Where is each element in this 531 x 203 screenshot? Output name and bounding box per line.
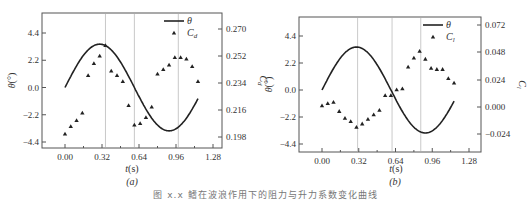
- data-marker: [383, 93, 387, 97]
- data-marker: [435, 67, 439, 71]
- data-marker: [173, 55, 177, 59]
- theta-line: [322, 47, 454, 133]
- data-marker: [74, 118, 78, 122]
- data-marker: [92, 61, 96, 65]
- data-marker: [167, 63, 171, 67]
- y-left-tick-label: 4.4: [285, 31, 297, 41]
- data-marker: [126, 103, 130, 107]
- y-right-tick-label: 0.270: [226, 24, 247, 34]
- x-tick-label: 0.00: [314, 156, 330, 166]
- y-right-tick-label: −0.024: [485, 129, 511, 139]
- data-marker: [394, 88, 398, 92]
- y-left-tick-label: −2.2: [280, 112, 296, 122]
- chart-panel-a: 0.000.320.640.961.284.42.20.0−2.2−4.40.2…: [0, 0, 531, 203]
- data-marker: [371, 112, 375, 116]
- x-tick-label: 1.28: [461, 156, 477, 166]
- data-marker: [132, 123, 136, 127]
- panel-sublabel: (a): [126, 176, 138, 188]
- data-marker: [360, 122, 364, 126]
- data-marker: [155, 72, 159, 76]
- data-marker: [80, 111, 84, 115]
- data-marker: [412, 56, 416, 60]
- panel-sublabel: (b): [389, 176, 401, 188]
- data-marker: [115, 73, 119, 77]
- data-marker: [190, 64, 194, 68]
- y-left-axis-label: θ(°): [6, 73, 18, 89]
- data-marker: [377, 108, 381, 112]
- data-marker: [423, 57, 427, 61]
- data-marker: [343, 116, 347, 120]
- x-tick-label: 0.00: [57, 152, 73, 162]
- legend-label-theta: θ: [187, 15, 192, 26]
- y-right-tick-label: 0.198: [226, 132, 247, 142]
- figure-caption: 图 x.x 鳍在波浪作用下的阻力与升力系数变化曲线: [0, 188, 531, 201]
- y-right-tick-label: 0.252: [226, 51, 246, 61]
- data-marker: [86, 73, 90, 77]
- data-marker: [184, 57, 188, 61]
- data-marker: [400, 86, 404, 90]
- y-right-tick-label: 0.048: [485, 47, 506, 57]
- data-marker: [144, 115, 148, 119]
- data-marker: [121, 79, 125, 83]
- data-marker: [161, 67, 165, 71]
- y-left-axis-label: θ(°): [263, 77, 275, 93]
- legend-label-coef: Cl: [446, 31, 455, 44]
- x-tick-label: 1.28: [205, 152, 221, 162]
- data-marker: [109, 69, 113, 73]
- y-right-tick-label: 0.000: [485, 102, 506, 112]
- data-marker: [440, 67, 444, 71]
- y-left-tick-label: 2.2: [28, 55, 39, 65]
- data-marker: [366, 117, 370, 121]
- y-left-tick-label: 2.2: [285, 58, 296, 68]
- data-marker: [429, 66, 433, 70]
- x-tick-label: 0.64: [131, 152, 147, 162]
- y-left-tick-label: −4.4: [23, 137, 40, 147]
- x-tick-label: 0.32: [351, 156, 367, 166]
- data-marker: [326, 101, 330, 105]
- y-right-tick-label: 0.024: [485, 75, 506, 85]
- y-left-tick-label: −2.2: [23, 110, 39, 120]
- data-marker: [406, 65, 410, 69]
- data-marker: [97, 54, 101, 58]
- x-axis-label: t(s): [125, 163, 138, 175]
- data-marker: [178, 55, 182, 59]
- x-axis-label: t(s): [389, 163, 402, 175]
- y-left-tick-label: −4.4: [280, 139, 297, 149]
- chart-panel-a: 0.000.320.640.961.284.42.20.0−2.2−4.40.2…: [6, 13, 269, 188]
- data-marker: [452, 81, 456, 85]
- data-marker: [446, 76, 450, 80]
- y-right-axis-label: Cl: [515, 80, 528, 89]
- y-left-tick-label: 0.0: [285, 85, 297, 95]
- legend-label-coef: Cd: [187, 27, 198, 40]
- data-marker: [150, 105, 154, 109]
- y-left-tick-label: 0.0: [28, 83, 40, 93]
- x-tick-label: 0.96: [168, 152, 184, 162]
- data-marker: [349, 119, 353, 123]
- y-left-tick-label: 4.4: [28, 28, 40, 38]
- figure: 0.000.320.640.961.284.42.20.0−2.2−4.40.2…: [0, 0, 531, 203]
- y-right-tick-label: 0.234: [226, 78, 247, 88]
- legend-marker-icon: [431, 35, 435, 39]
- y-right-tick-label: 0.072: [485, 20, 505, 30]
- legend-marker-icon: [172, 31, 176, 35]
- x-tick-label: 0.96: [424, 156, 440, 166]
- data-marker: [138, 121, 142, 125]
- legend-label-theta: θ: [446, 19, 451, 30]
- x-tick-label: 0.32: [94, 152, 110, 162]
- y-right-tick-label: 0.216: [226, 105, 247, 115]
- data-marker: [69, 124, 73, 128]
- data-marker: [63, 132, 67, 136]
- data-marker: [331, 100, 335, 104]
- data-marker: [337, 109, 341, 113]
- chart-panel-b: 0.000.320.640.961.284.42.20.0−2.2−4.40.0…: [263, 17, 528, 188]
- data-marker: [320, 103, 324, 107]
- data-marker: [196, 79, 200, 83]
